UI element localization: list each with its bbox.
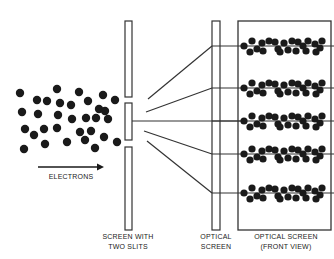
impact-dot [288, 37, 295, 44]
optical-screen-label-line2: SCREEN [188, 242, 244, 252]
impact-dot [246, 90, 253, 97]
impact-dot [292, 47, 299, 54]
impact-dot [302, 89, 309, 96]
electron-dot [104, 115, 112, 123]
impact-dot [248, 112, 255, 119]
impact-dot [292, 194, 299, 201]
impact-dot [258, 39, 265, 46]
impact-dot [265, 112, 272, 119]
impact-dot [276, 90, 283, 97]
impact-dot [284, 193, 291, 200]
electron-dot [16, 89, 24, 97]
front-view-label: OPTICAL SCREEN (FRONT VIEW) [243, 232, 329, 252]
impact-dot [265, 184, 272, 191]
impact-dot [248, 145, 255, 152]
impact-dot [312, 48, 319, 55]
impact-dot [280, 147, 287, 154]
impact-dot [258, 147, 265, 154]
slit-screen-label-line1: SCREEN WITH [94, 232, 162, 242]
electron-dot [92, 114, 100, 122]
electron-dot [91, 144, 99, 152]
ray-line [147, 141, 212, 193]
electron-dot [81, 136, 89, 144]
impact-dot [240, 117, 247, 124]
impact-dot [246, 48, 253, 55]
electron-dot [53, 85, 61, 93]
slit-screen-segment [125, 21, 132, 97]
impact-dot [259, 47, 266, 54]
impact-dot [292, 89, 299, 96]
ray-line [146, 88, 212, 112]
electron-dot [75, 88, 83, 96]
electron-dot [53, 124, 61, 132]
electron-dot [87, 127, 95, 135]
impact-dot [271, 38, 278, 45]
impact-dot [318, 37, 325, 44]
slit-screen-segment [125, 103, 132, 140]
slit-screen-segment [125, 147, 132, 230]
slit-screen-label-line2: TWO SLITS [94, 242, 162, 252]
electron-dot [20, 145, 28, 153]
impact-dot [240, 189, 247, 196]
impact-dot [259, 194, 266, 201]
impact-dot [284, 46, 291, 53]
impact-dot [248, 184, 255, 191]
impact-dot [304, 184, 311, 191]
front-view-label-line2: (FRONT VIEW) [243, 242, 329, 252]
electron-dot [100, 133, 108, 141]
impact-dot [271, 146, 278, 153]
impact-dot [246, 156, 253, 163]
impact-dot [240, 150, 247, 157]
impact-dot [258, 81, 265, 88]
double-slit-diagram: ELECTRONS SCREEN WITH TWO SLITS OPTICAL … [0, 0, 334, 259]
impact-dot [304, 112, 311, 119]
impact-dot [284, 154, 291, 161]
impact-dot [302, 155, 309, 162]
impact-dot [304, 79, 311, 86]
impact-dot [288, 145, 295, 152]
front-view-label-line1: OPTICAL SCREEN [243, 232, 329, 242]
impact-dot [258, 186, 265, 193]
impact-dot [318, 112, 325, 119]
slit-screen-label: SCREEN WITH TWO SLITS [94, 232, 162, 252]
electron-dots [16, 85, 121, 153]
impact-dot [312, 123, 319, 130]
electron-dot [76, 128, 84, 136]
electron-dot [34, 110, 42, 118]
impact-dot [258, 114, 265, 121]
impact-dot [259, 122, 266, 129]
electron-dot [67, 101, 75, 109]
impact-dot [240, 42, 247, 49]
optical-screen-label: OPTICAL SCREEN [188, 232, 244, 252]
impact-dot [288, 112, 295, 119]
electron-dot [18, 108, 26, 116]
electron-dot [43, 97, 51, 105]
impact-dot [276, 48, 283, 55]
impact-dot [292, 122, 299, 129]
impact-dot [276, 123, 283, 130]
optical-screen-bar [212, 21, 220, 230]
diffraction-rays [132, 46, 245, 193]
electron-dot [56, 99, 64, 107]
impact-dot [280, 81, 287, 88]
impact-dot [302, 194, 309, 201]
impact-dot [246, 123, 253, 130]
electron-dot [82, 114, 90, 122]
impact-dot [265, 79, 272, 86]
impact-dot [271, 185, 278, 192]
impact-dot [248, 37, 255, 44]
impact-dot [259, 89, 266, 96]
electron-dot [99, 91, 107, 99]
impact-dot [302, 47, 309, 54]
impact-dot [280, 114, 287, 121]
impact-dot [240, 84, 247, 91]
impact-dot [271, 80, 278, 87]
impact-dot [276, 156, 283, 163]
impact-dot [265, 37, 272, 44]
impact-dot [248, 79, 255, 86]
electrons-arrow-icon [38, 164, 104, 171]
impact-dot [292, 155, 299, 162]
impact-dot [276, 195, 283, 202]
diagram-canvas [0, 0, 334, 259]
impact-dot [284, 121, 291, 128]
